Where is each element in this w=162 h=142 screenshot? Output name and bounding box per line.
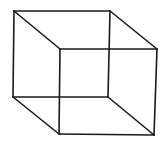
top-right-depth-edge: [110, 11, 157, 49]
front-bottom-edge: [59, 134, 154, 135]
back-left-edge: [13, 11, 14, 97]
front-right-edge: [154, 49, 157, 135]
top-left-depth-edge: [14, 11, 60, 49]
back-right-edge: [108, 11, 110, 97]
bottom-right-depth-edge: [108, 97, 154, 135]
front-left-edge: [59, 49, 60, 134]
necker-cube-diagram: [0, 0, 162, 142]
bottom-left-depth-edge: [13, 97, 59, 134]
